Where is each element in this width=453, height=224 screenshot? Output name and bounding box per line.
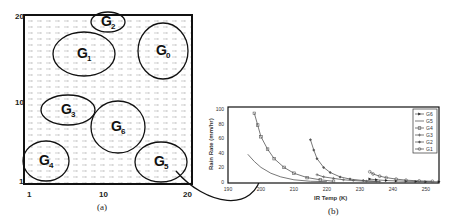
svg-text:1: 1: [87, 54, 92, 63]
y-tick-10: 10: [15, 98, 24, 107]
y-axis-label: Rain Rate (mm/hr): [208, 118, 214, 170]
x-tick: 250: [422, 186, 431, 192]
svg-text:4: 4: [49, 161, 54, 170]
svg-text:G4: G4: [426, 125, 433, 131]
x-tick: 190: [224, 186, 233, 192]
y-axis: 020406080100: [216, 106, 225, 185]
y-tick-20: 20: [15, 12, 24, 21]
x-axis-label: IR Temp (K): [314, 195, 347, 201]
plot-area: [228, 107, 439, 183]
figure: G0G1G2G3G4G5G6 20 10 1 1 10 20 (a) 02040…: [0, 0, 453, 224]
svg-text:2: 2: [111, 22, 116, 31]
svg-text:0: 0: [166, 51, 171, 60]
x-tick: 200: [257, 186, 266, 192]
svg-text:5: 5: [164, 162, 169, 171]
panel-b: 020406080100 190200210220230240250 Rain …: [208, 106, 441, 216]
y-tick: 60: [218, 135, 224, 141]
svg-text:G6: G6: [426, 111, 433, 117]
y-tick: 80: [218, 121, 224, 127]
svg-text:3: 3: [71, 110, 76, 119]
svg-text:G3: G3: [426, 132, 433, 138]
x-tick-10: 10: [99, 190, 108, 199]
panel-a: G0G1G2G3G4G5G6 20 10 1 1 10 20 (a): [15, 12, 192, 212]
y-tick: 20: [218, 164, 224, 170]
y-tick: 40: [218, 150, 224, 156]
y-tick: 0: [221, 179, 224, 185]
svg-text:6: 6: [121, 127, 126, 136]
y-tick-1: 1: [19, 177, 24, 186]
svg-text:G2: G2: [426, 139, 433, 145]
x-tick-20: 20: [183, 190, 192, 199]
caption-a: (a): [97, 202, 107, 212]
x-tick: 210: [290, 186, 299, 192]
svg-text:G1: G1: [426, 146, 433, 152]
x-tick-1: 1: [27, 190, 32, 199]
x-tick: 220: [323, 186, 332, 192]
legend: G6G5G4G3G2G1: [413, 109, 437, 153]
x-tick: 240: [389, 186, 398, 192]
y-tick: 100: [216, 106, 225, 112]
x-tick: 230: [356, 186, 365, 192]
caption-b: (b): [328, 206, 339, 216]
svg-text:G5: G5: [426, 118, 433, 124]
